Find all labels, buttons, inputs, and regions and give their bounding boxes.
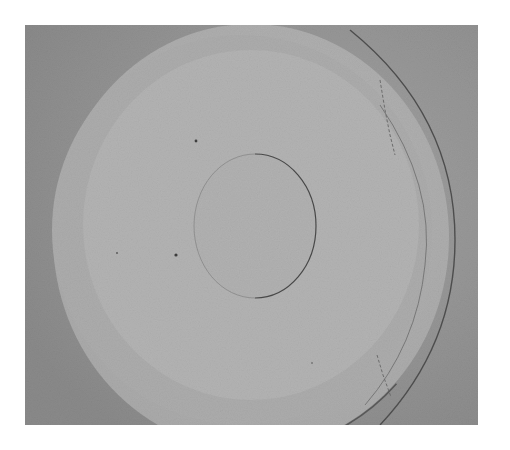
concentric-discs-illustration xyxy=(25,25,478,425)
image-frame xyxy=(0,0,510,450)
photograph xyxy=(25,25,478,425)
speck xyxy=(174,253,177,256)
inner-disc xyxy=(194,154,316,298)
speck xyxy=(311,362,313,364)
speck xyxy=(195,140,198,143)
speck xyxy=(116,252,118,254)
